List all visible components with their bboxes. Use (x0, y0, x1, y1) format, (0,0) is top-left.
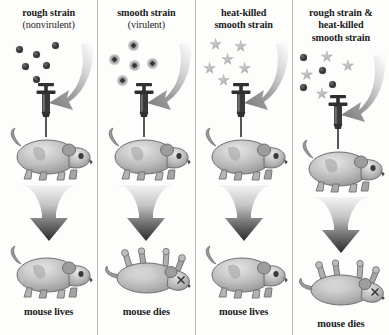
outcome-scene-3 (195, 242, 292, 302)
injection-scene-4 (292, 46, 389, 196)
column-header-1: rough strain(nonvirulent) (0, 0, 97, 32)
column-header-line: rough strain (0, 7, 97, 19)
injection-scene-3 (195, 34, 292, 184)
column-header-line: smooth strain (196, 19, 292, 31)
experiment-column-4: rough strain &heat-killedsmooth strain (292, 0, 389, 335)
column-header-line: (nonvirulent) (0, 19, 97, 31)
column-header-line: heat-killed (196, 7, 292, 19)
column-header-4: rough strain &heat-killedsmooth strain (293, 0, 389, 44)
down-arrow-icon (115, 184, 177, 242)
bacterium-dot-icon (16, 46, 23, 53)
outcome-label-3: mouse lives (196, 306, 292, 317)
column-header-line: (virulent) (98, 19, 194, 31)
outcome-label-4: mouse dies (293, 318, 389, 329)
outcome-scene-2 (98, 242, 195, 302)
outcome-arrow-wrap (195, 184, 292, 242)
outcome-label-1: mouse lives (0, 306, 97, 317)
outcome-mouse-dead-icon (295, 254, 387, 312)
bacterium-dot-icon (300, 84, 307, 91)
outcome-mouse-alive-icon (198, 242, 290, 300)
down-arrow-icon (213, 184, 275, 242)
outcome-arrow-wrap (0, 184, 97, 242)
injection-scene-1 (0, 34, 97, 184)
bacterium-star-icon (300, 68, 313, 81)
outcome-label-2: mouse dies (98, 306, 194, 317)
injection-scene-2 (98, 34, 195, 184)
injected-mouse-alive-icon (101, 122, 193, 184)
bacterium-dot-icon (319, 67, 326, 74)
column-header-line: smooth strain (293, 32, 389, 44)
injected-mouse-alive-icon (295, 134, 387, 196)
outcome-arrow-wrap (292, 196, 389, 254)
injected-mouse-alive-icon (198, 122, 290, 184)
bacterium-star-icon (221, 53, 234, 66)
experiment-column-3: heat-killedsmooth strain (195, 0, 292, 335)
bacterium-capsule-icon (117, 75, 128, 86)
bacterium-dot-icon (300, 54, 307, 61)
down-arrow-icon (310, 196, 372, 254)
experiment-column-1: rough strain(nonvirulent) (0, 0, 97, 335)
outcome-scene-4 (292, 254, 389, 314)
column-header-line: heat-killed (293, 19, 389, 31)
column-header-3: heat-killedsmooth strain (196, 0, 292, 32)
bacterium-capsule-icon (109, 54, 120, 65)
outcome-arrow-wrap (98, 184, 195, 242)
column-header-line: smooth strain (98, 7, 194, 19)
bacterium-star-icon (209, 38, 222, 51)
outcome-mouse-alive-icon (3, 242, 95, 300)
experiment-column-2: smooth strain(virulent) (97, 0, 194, 335)
down-arrow-icon (18, 184, 80, 242)
column-header-line: rough strain & (293, 7, 389, 19)
column-header-2: smooth strain(virulent) (98, 0, 194, 32)
outcome-mouse-dead-icon (101, 242, 193, 300)
griffith-experiment-figure: rough strain(nonvirulent) (0, 0, 389, 335)
bacterium-star-icon (203, 62, 216, 75)
injected-mouse-alive-icon (3, 122, 95, 184)
outcome-scene-1 (0, 242, 97, 302)
bacterium-dot-icon (22, 63, 29, 70)
